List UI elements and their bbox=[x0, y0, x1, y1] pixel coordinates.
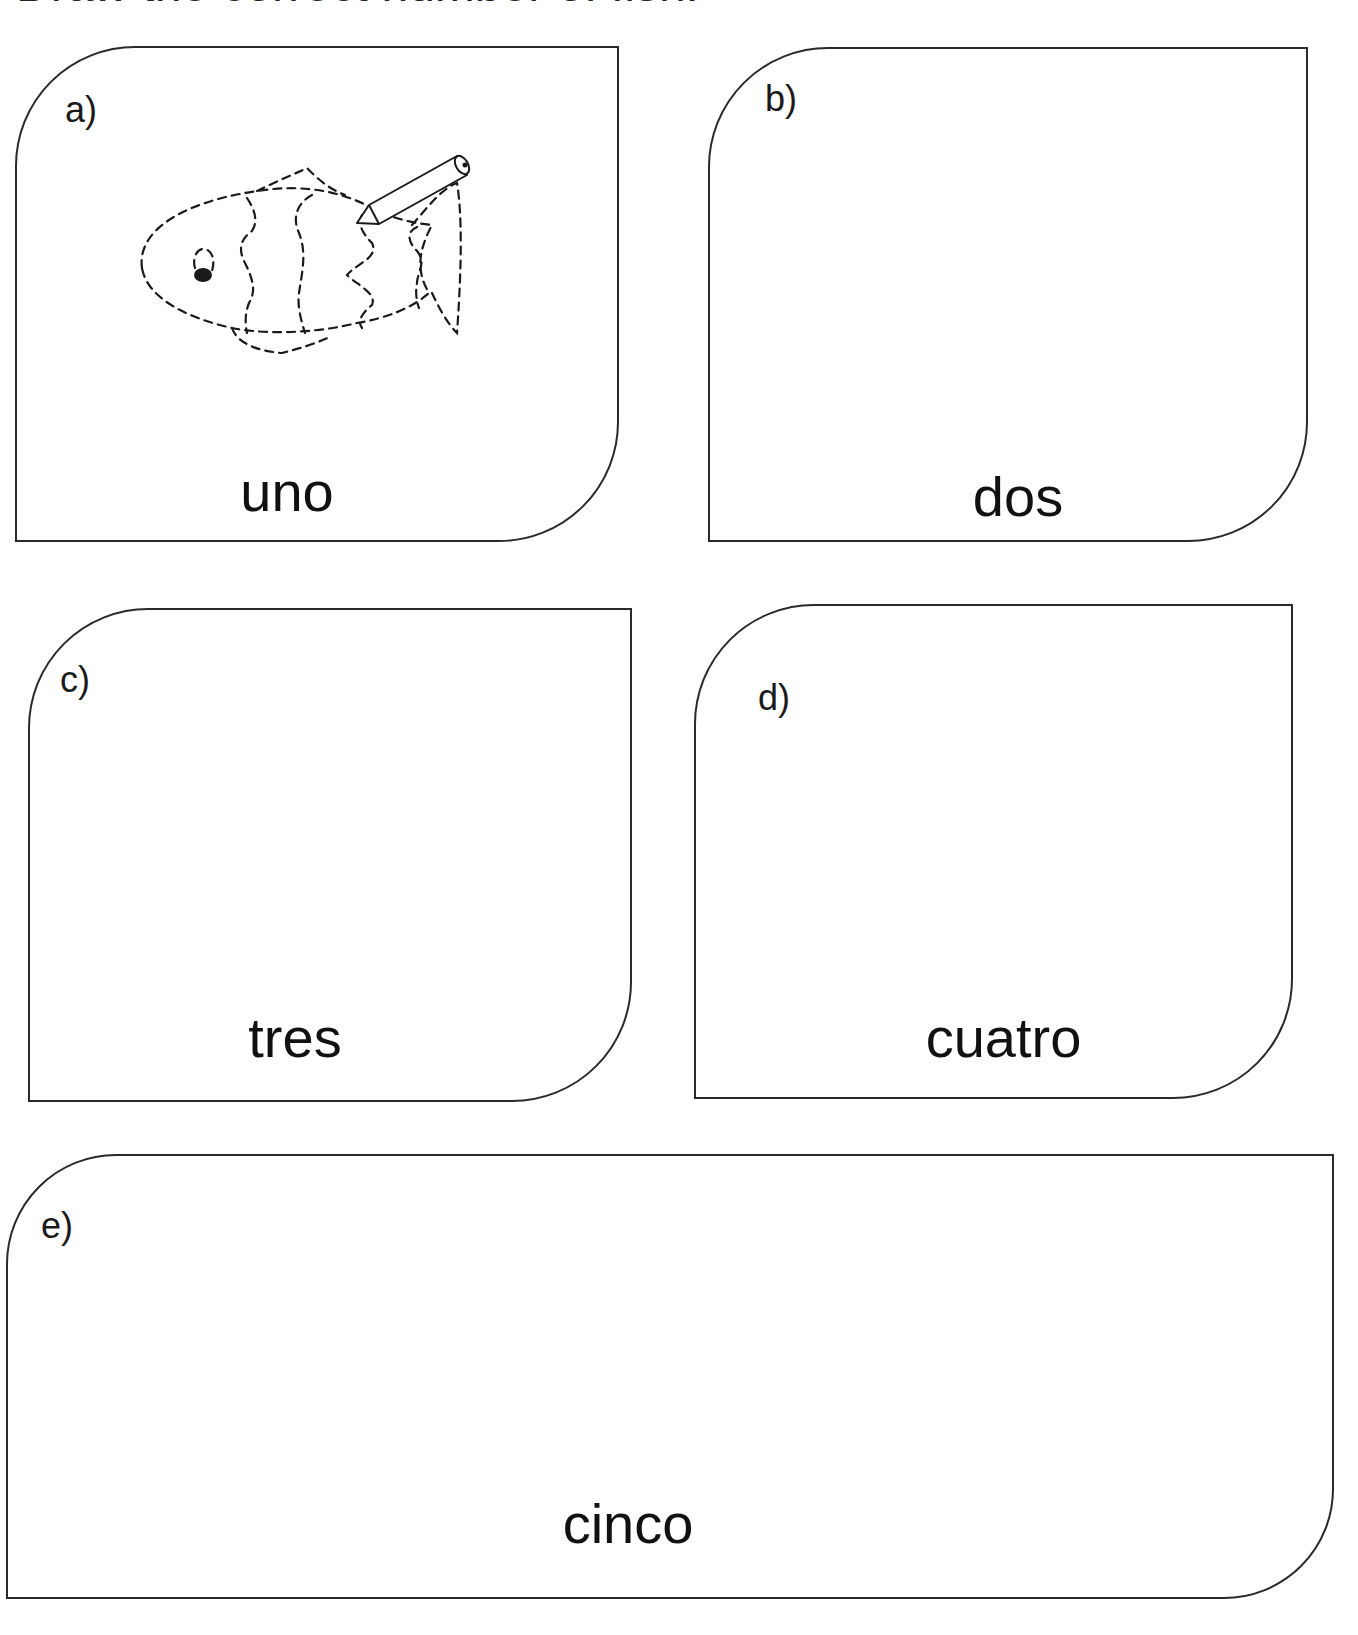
card-letter: e) bbox=[41, 1206, 73, 1246]
fish-tracing-icon bbox=[117, 123, 477, 373]
worksheet-title: Draw the correct number of fish. bbox=[16, 0, 699, 10]
card-letter: b) bbox=[765, 79, 797, 119]
card-e[interactable]: e) cinco bbox=[6, 1154, 1334, 1599]
card-letter: c) bbox=[60, 660, 90, 700]
number-word: cuatro bbox=[716, 1008, 1291, 1068]
number-word: uno bbox=[0, 462, 577, 522]
card-letter: d) bbox=[758, 678, 790, 718]
card-a[interactable]: a) bbox=[15, 46, 619, 542]
number-word: dos bbox=[730, 467, 1306, 527]
card-c[interactable]: c) tres bbox=[28, 608, 632, 1102]
card-b[interactable]: b) dos bbox=[708, 47, 1308, 542]
number-word: cinco bbox=[8, 1494, 1248, 1554]
number-word: tres bbox=[0, 1008, 590, 1068]
card-d[interactable]: d) cuatro bbox=[694, 604, 1293, 1099]
card-letter: a) bbox=[65, 90, 97, 130]
